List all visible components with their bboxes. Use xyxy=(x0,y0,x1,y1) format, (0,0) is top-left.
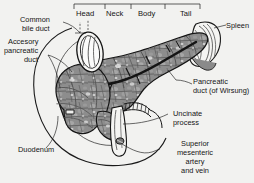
accessory-duct-line1: Accesory xyxy=(8,37,39,46)
common-bile-duct-line1: Common xyxy=(20,15,50,24)
superior-mesenteric-line2: mesenteric xyxy=(177,148,213,157)
accessory-duct-stub xyxy=(66,110,74,114)
superior-mesenteric-line3: artery xyxy=(186,157,205,166)
pancreatic-duct-line1: Pancreatic xyxy=(193,77,228,86)
segment-label-tail: Tail xyxy=(180,9,192,18)
pancreas-anatomy-figure: Head Neck Body Tail xyxy=(0,0,254,183)
segment-label-body: Body xyxy=(138,9,156,18)
pancreatic-duct-line2: duct (of Wirsung) xyxy=(193,86,249,95)
segment-label-head: Head xyxy=(76,9,94,18)
label-uncinate-process: Uncinate process xyxy=(173,109,202,127)
superior-mesenteric-line1: Superior xyxy=(181,139,209,148)
duodenum-line1: Duodenum xyxy=(18,145,54,154)
uncinate-line2: process xyxy=(173,118,199,127)
segment-label-neck: Neck xyxy=(106,9,124,18)
accessory-duct-line2: pancreatic xyxy=(4,46,38,55)
spleen-line1: Spleen xyxy=(226,21,249,30)
superior-mesenteric-line4: and vein xyxy=(181,166,209,175)
accessory-duct-line3: duct xyxy=(24,55,38,64)
uncinate-line1: Uncinate xyxy=(173,109,202,118)
common-bile-duct-line2: bile duct xyxy=(22,24,50,33)
label-duodenum: Duodenum xyxy=(18,145,54,154)
label-common-bile-duct: Common bile duct xyxy=(20,15,50,33)
label-spleen: Spleen xyxy=(226,21,249,30)
